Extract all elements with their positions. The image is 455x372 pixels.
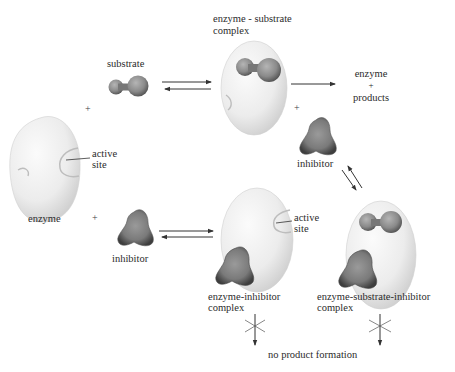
reversible-arrow-inhibitor-ei (159, 231, 213, 237)
es-complex-shape (221, 41, 287, 135)
no-product-label: no product formation (268, 349, 357, 360)
active-site-label-line2: site (92, 159, 107, 170)
plus-sign-es-inhibitor: + (294, 102, 300, 113)
enzyme-inhibition-diagram: substrate enzyme - substrate complex enz… (0, 0, 455, 372)
active-site-ei-label-line2: site (294, 223, 309, 234)
active-site-label-line1: active (92, 148, 117, 159)
inhibitor-molecule-bottom (118, 210, 154, 246)
reversible-arrow-substrate-es (162, 82, 211, 89)
products-label-plus: + (348, 80, 394, 91)
substrate-molecule (109, 76, 149, 97)
enzyme-label: enzyme (28, 213, 61, 224)
products-label-line1: enzyme (348, 68, 394, 79)
inhibitor-label-top: inhibitor (297, 158, 333, 169)
esi-complex-label-line2: complex (317, 302, 353, 313)
plus-sign-enzyme-inhibitor: + (92, 212, 98, 223)
blocked-arrow-esi (369, 314, 391, 345)
es-complex-label-line2: complex (213, 25, 249, 36)
ei-complex-label-line2: complex (208, 302, 244, 313)
enzyme-shape (10, 117, 90, 223)
blocked-arrow-ei (245, 314, 265, 345)
inhibitor-molecule-top (300, 118, 337, 155)
inhibitor-label-bottom: inhibitor (112, 253, 148, 264)
esi-complex-label-line1: enzyme-substrate-inhibitor (317, 291, 430, 302)
reversible-arrow-inhibitor-esi (342, 166, 362, 190)
diagram-graphics (0, 0, 455, 372)
es-complex-label-line1: enzyme - substrate (213, 13, 292, 24)
substrate-label: substrate (107, 58, 144, 69)
ei-complex-shape (216, 188, 293, 292)
ei-complex-label-line1: enzyme-inhibitor (208, 291, 280, 302)
active-site-ei-label-line1: active (294, 212, 319, 223)
plus-sign-enzyme-substrate: + (85, 103, 91, 114)
products-label-line2: products (348, 92, 394, 103)
